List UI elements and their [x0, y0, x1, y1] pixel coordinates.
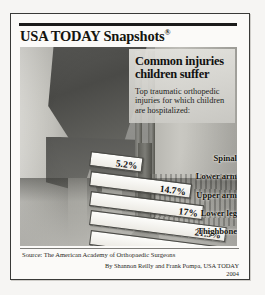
masthead-title: USA TODAY Snapshots® [20, 28, 236, 45]
bar-row: Spinal5.2% [20, 151, 237, 166]
bar-row: Lower leg21.5% [20, 200, 237, 215]
outer-frame: USA TODAY Snapshots® Common injuries chi… [10, 13, 250, 280]
masthead-rule [19, 23, 237, 26]
bar-row: Thighbone21.7% [20, 217, 237, 232]
snapshot-infographic: USA TODAY Snapshots® Common injuries chi… [0, 0, 265, 295]
byline: By Shannon Reilly and Frank Pompa, USA T… [39, 262, 239, 279]
bar-value-label: 21.7% [195, 245, 223, 246]
source-note: Source: The American Academy of Orthopae… [20, 248, 239, 261]
bar-category-label: Thighbone [171, 224, 237, 239]
page-title: Common injuries children suffer [135, 55, 230, 82]
bar-category-label: Spinal [171, 151, 237, 166]
photo-panel: Common injuries children suffer Top trau… [20, 47, 237, 246]
byline-authors: By Shannon Reilly and Frank Pompa, USA T… [105, 262, 239, 269]
masthead-brand: USA TODAY Snapshots [20, 28, 165, 44]
bar-row: Lower arm14.7% [20, 167, 237, 182]
headline-block: Common injuries children suffer Top trau… [129, 49, 235, 123]
bar-chart: Spinal5.2%Lower arm14.7%Upper arm17%Lowe… [20, 151, 237, 246]
registered-mark-icon: ® [165, 28, 171, 37]
bar-row: Upper arm17% [20, 184, 237, 199]
subtitle: Top traumatic orthopedic injuries for wh… [135, 87, 230, 115]
byline-year: 2004 [39, 270, 239, 278]
